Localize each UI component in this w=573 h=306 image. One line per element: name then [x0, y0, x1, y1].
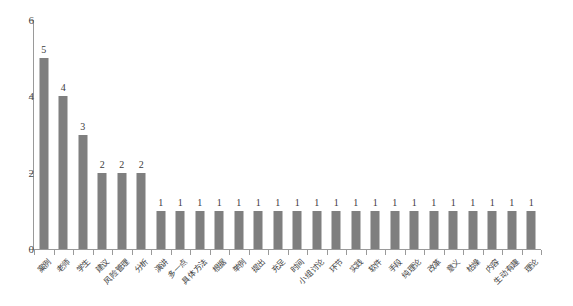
x-tick-mark [522, 250, 523, 255]
bar-value-label: 1 [392, 198, 397, 208]
x-axis-category-label: 案例 [35, 257, 53, 275]
bar-value-label: 2 [139, 160, 144, 170]
x-axis-category-label: 软件 [367, 257, 385, 275]
bar-chart: 0246 54322211111111111111111111 案例老师学生建议… [0, 0, 573, 306]
x-tick-mark [405, 250, 406, 255]
bar [390, 211, 399, 249]
bar-slot: 1 [346, 20, 366, 249]
bar-value-label: 1 [470, 198, 475, 208]
bar-value-label: 5 [41, 45, 46, 55]
bar-value-label: 1 [236, 198, 241, 208]
x-tick-mark [190, 250, 191, 255]
x-tick-mark [307, 250, 308, 255]
bar-value-label: 1 [431, 198, 436, 208]
bar-slot: 1 [190, 20, 210, 249]
bar-slot: 1 [307, 20, 327, 249]
bar-value-label: 1 [373, 198, 378, 208]
bar [215, 211, 224, 249]
bar [332, 211, 341, 249]
bar [273, 211, 282, 249]
bar [234, 211, 243, 249]
bar-slot: 1 [229, 20, 249, 249]
bar-slot: 1 [171, 20, 191, 249]
x-axis-category-label: 枯燥 [464, 257, 482, 275]
x-tick-mark [229, 250, 230, 255]
y-tick-label: 2 [8, 168, 34, 179]
bar-slot: 1 [405, 20, 425, 249]
bar-slot: 1 [502, 20, 522, 249]
bar-value-label: 3 [80, 122, 85, 132]
bar [468, 211, 477, 249]
bar [293, 211, 302, 249]
bar-value-label: 2 [119, 160, 124, 170]
bar-slot: 1 [327, 20, 347, 249]
bar-value-label: 1 [275, 198, 280, 208]
x-axis-category-label: 提出 [250, 257, 268, 275]
x-axis-category-label: 根据 [211, 257, 229, 275]
x-tick-mark [502, 250, 503, 255]
bar-slot: 1 [210, 20, 230, 249]
bar-value-label: 1 [451, 198, 456, 208]
bar-value-label: 4 [61, 83, 66, 93]
x-axis-category-label: 学生 [74, 257, 92, 275]
bar-value-label: 1 [353, 198, 358, 208]
y-tick-label: 0 [8, 244, 34, 255]
bar [507, 211, 516, 249]
bar-value-label: 1 [256, 198, 261, 208]
x-tick-mark [132, 250, 133, 255]
x-axis-category-label: 环节 [328, 257, 346, 275]
y-tick-label: 6 [8, 15, 34, 26]
x-tick-mark [73, 250, 74, 255]
x-tick-mark [54, 250, 55, 255]
x-axis-category-label: 举例 [230, 257, 248, 275]
bar [78, 135, 87, 250]
bar [39, 58, 48, 249]
x-tick-mark [34, 250, 35, 255]
bar-value-label: 1 [509, 198, 514, 208]
x-axis-category-label: 充足 [269, 257, 287, 275]
bar-slot: 1 [151, 20, 171, 249]
x-tick-mark [483, 250, 484, 255]
x-tick-mark [366, 250, 367, 255]
bar-value-label: 1 [217, 198, 222, 208]
x-axis-category-label: 意义 [445, 257, 463, 275]
bar-value-label: 1 [314, 198, 319, 208]
bar [59, 96, 68, 249]
x-axis-category-label: 理论 [523, 257, 541, 275]
x-axis-category-label: 分析 [133, 257, 151, 275]
bar [98, 173, 107, 249]
x-tick-mark [327, 250, 328, 255]
bar-value-label: 1 [490, 198, 495, 208]
bar [351, 211, 360, 249]
x-axis-category-label: 改革 [425, 257, 443, 275]
x-tick-mark [463, 250, 464, 255]
bar-slot: 1 [366, 20, 386, 249]
bar-slot: 1 [385, 20, 405, 249]
x-tick-mark [385, 250, 386, 255]
x-tick-mark [346, 250, 347, 255]
bar-slot: 1 [249, 20, 269, 249]
bar [410, 211, 419, 249]
bar [429, 211, 438, 249]
x-tick-mark [249, 250, 250, 255]
bar-slot: 4 [54, 20, 74, 249]
bar-slot: 1 [483, 20, 503, 249]
x-axis-category-label: 老师 [55, 257, 73, 275]
bar-slot: 3 [73, 20, 93, 249]
x-tick-mark [210, 250, 211, 255]
bar [527, 211, 536, 249]
bar [137, 173, 146, 249]
bar [195, 211, 204, 249]
bar-slot: 1 [522, 20, 542, 249]
x-tick-mark [93, 250, 94, 255]
bar [254, 211, 263, 249]
bar [312, 211, 321, 249]
bar-slot: 2 [132, 20, 152, 249]
bar [117, 173, 126, 249]
bar [176, 211, 185, 249]
bar-value-label: 2 [100, 160, 105, 170]
bar-slot: 2 [93, 20, 113, 249]
bar-slot: 1 [288, 20, 308, 249]
x-tick-mark [112, 250, 113, 255]
bar-value-label: 1 [334, 198, 339, 208]
